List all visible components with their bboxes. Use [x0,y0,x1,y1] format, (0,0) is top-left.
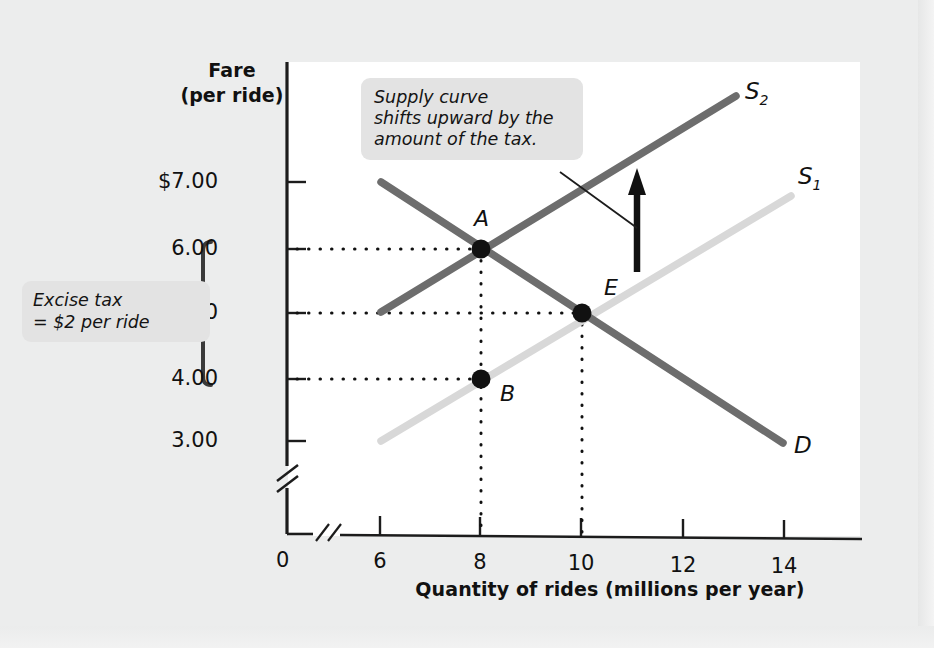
point-a-marker [472,240,491,259]
x-tick-label-8: 8 [450,550,510,574]
y-axis-title-line1: Fare [208,59,255,81]
tax-shift-arrow [628,168,646,272]
supply-shift-callout: Supply curve shifts upward by the amount… [361,78,583,160]
y-tick-label-6: 6.00 [108,236,218,260]
x-tick-label-6: 6 [350,549,410,573]
page-background: Fare (per ride) Quantity of rides (milli… [0,0,934,648]
point-label-e: E [604,275,618,300]
curve-label-s1-sub: 1 [813,177,822,193]
origin-label: 0 [276,548,289,572]
x-tick-label-10: 10 [551,551,611,575]
curve-label-s2: S2 [745,78,769,108]
x-axis-title: Quantity of rides (millions per year) [330,578,890,600]
y-tick-label-4: 4.00 [108,366,218,390]
x-axis-break-mark-1 [316,524,329,541]
y-axis-title: Fare (per ride) [176,58,288,108]
curve-label-d: D [794,432,812,458]
y-axis-title-line2: (per ride) [180,84,283,106]
point-label-b: B [500,381,515,406]
x-tick-label-14: 14 [754,554,814,578]
curve-label-s1-text: S [798,163,813,189]
economics-figure: Fare (per ride) Quantity of rides (milli… [0,0,934,648]
y-tick-label-3: 3.00 [108,428,218,452]
point-e-marker [573,304,592,323]
point-label-a: A [474,206,489,231]
curve-label-s2-text: S [745,78,760,104]
curve-label-s2-sub: 2 [760,92,769,108]
excise-tax-callout: Excise tax = $2 per ride [22,281,210,342]
point-b-marker [472,370,491,389]
y-tick-label-7: $7.00 [108,169,218,193]
x-tick-label-12: 12 [653,553,713,577]
x-axis-break-mark-2 [328,524,341,541]
curve-label-s1: S1 [798,163,822,193]
